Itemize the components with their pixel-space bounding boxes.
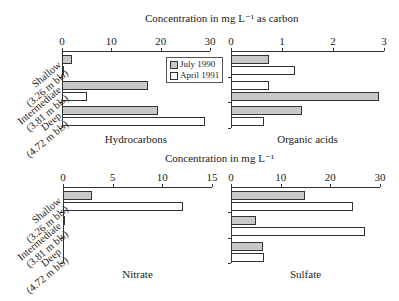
panel-title: Nitrate bbox=[122, 268, 153, 280]
bar-july-1990 bbox=[62, 81, 148, 90]
bar-july-1990 bbox=[231, 92, 379, 101]
x-tick-label: 10 bbox=[157, 171, 168, 183]
bar-april-1991 bbox=[62, 117, 205, 126]
x-tick bbox=[231, 48, 232, 51]
x-tick bbox=[63, 184, 64, 187]
bar-april-1991 bbox=[231, 66, 295, 75]
legend-item: April 1991 bbox=[170, 70, 219, 81]
y-tick bbox=[228, 77, 231, 78]
y-tick bbox=[228, 212, 231, 213]
x-tick-label: 10 bbox=[106, 35, 117, 47]
x-tick-label: 30 bbox=[205, 35, 216, 47]
x-axis bbox=[62, 51, 210, 52]
x-tick bbox=[281, 184, 282, 187]
x-axis bbox=[63, 187, 212, 188]
x-tick-label: 5 bbox=[110, 171, 116, 183]
x-tick-label: 15 bbox=[207, 171, 218, 183]
x-tick-label: 1 bbox=[279, 35, 285, 47]
bar-april-1991 bbox=[231, 117, 264, 126]
legend-item: July 1990 bbox=[170, 59, 219, 70]
bar-july-1990 bbox=[231, 216, 256, 225]
x-tick bbox=[62, 48, 63, 51]
bar-july-1990 bbox=[62, 106, 158, 115]
bar-july-1990 bbox=[62, 55, 72, 64]
x-tick-label: 2 bbox=[330, 35, 336, 47]
bar-april-1991 bbox=[231, 202, 353, 211]
y-tick bbox=[228, 128, 231, 129]
x-tick bbox=[111, 48, 112, 51]
bar-april-1991 bbox=[63, 202, 183, 211]
panel-title: Sulfate bbox=[290, 268, 321, 280]
y-tick bbox=[228, 102, 231, 103]
bottom-axis-title: Concentration in mg L⁻¹ bbox=[165, 152, 274, 165]
bar-july-1990 bbox=[231, 55, 269, 64]
bar-april-1991 bbox=[231, 227, 365, 236]
x-tick-label: 0 bbox=[228, 171, 234, 183]
bar-april-1991 bbox=[231, 253, 264, 262]
y-tick bbox=[228, 263, 231, 264]
x-tick-label: 0 bbox=[228, 35, 234, 47]
x-tick-label: 0 bbox=[60, 171, 66, 183]
legend: July 1990April 1991 bbox=[166, 57, 223, 83]
x-tick-label: 3 bbox=[381, 35, 387, 47]
bar-july-1990 bbox=[63, 191, 92, 200]
legend-label: April 1991 bbox=[180, 70, 219, 80]
panel-title: Hydrocarbons bbox=[105, 133, 167, 145]
x-tick bbox=[161, 48, 162, 51]
x-tick-label: 30 bbox=[375, 171, 386, 183]
x-tick bbox=[210, 48, 211, 51]
bar-july-1990 bbox=[231, 106, 302, 115]
panel-title: Organic acids bbox=[277, 133, 338, 145]
bar-july-1990 bbox=[63, 216, 65, 225]
x-tick bbox=[384, 48, 385, 51]
legend-swatch bbox=[170, 61, 178, 69]
x-tick-label: 20 bbox=[325, 171, 336, 183]
legend-label: July 1990 bbox=[180, 59, 215, 69]
x-tick bbox=[330, 184, 331, 187]
bar-april-1991 bbox=[231, 81, 269, 90]
x-axis bbox=[231, 187, 380, 188]
x-tick bbox=[212, 184, 213, 187]
x-tick bbox=[231, 184, 232, 187]
x-tick-label: 20 bbox=[155, 35, 166, 47]
x-tick-label: 10 bbox=[275, 171, 286, 183]
legend-swatch bbox=[170, 72, 178, 80]
x-tick bbox=[162, 184, 163, 187]
bar-july-1990 bbox=[231, 191, 305, 200]
x-tick-label: 0 bbox=[59, 35, 65, 47]
x-tick bbox=[333, 48, 334, 51]
x-axis bbox=[231, 51, 384, 52]
y-tick bbox=[228, 238, 231, 239]
bar-july-1990 bbox=[231, 242, 263, 251]
x-tick bbox=[113, 184, 114, 187]
top-axis-title: Concentration in mg L⁻¹ as carbon bbox=[145, 12, 299, 25]
x-tick bbox=[380, 184, 381, 187]
x-tick bbox=[282, 48, 283, 51]
